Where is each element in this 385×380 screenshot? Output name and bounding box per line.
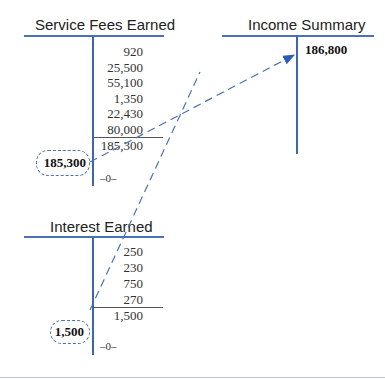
bottom-rule — [0, 377, 385, 378]
service-fees-closing-arrow — [90, 55, 294, 162]
interest-earned-closing-arrow — [90, 72, 200, 310]
closing-arrows — [0, 0, 385, 380]
